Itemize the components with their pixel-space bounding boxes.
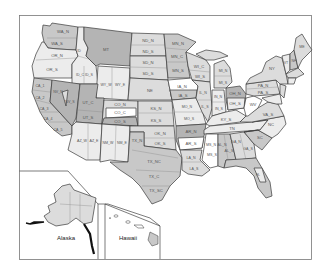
label-mo-s: MO_S (184, 117, 195, 121)
island-oahu (126, 221, 130, 224)
label-oh-n: OH_N (229, 91, 241, 96)
label-mn-n: MN_N (172, 41, 184, 46)
label-fl: FL (256, 173, 260, 177)
label-mo-n: MO_N (182, 105, 193, 109)
label-va-s: VA_S (263, 112, 274, 117)
label-tx-n: TX_N (132, 138, 143, 143)
label-ok-s: OK_S (154, 141, 165, 146)
label-nm-e: NM_E (117, 141, 128, 145)
hawaii-label: Hawaii (119, 235, 137, 241)
state-indiana[interactable] (212, 90, 226, 116)
label-ga-n: GA_N (231, 140, 241, 144)
label-wi-s: WI_S (195, 74, 205, 79)
label-ga-s: GA_S (243, 147, 253, 151)
label-ne: NE (147, 88, 153, 93)
label-or-n: OR_N (51, 53, 63, 58)
label-id-c: ID_C (76, 73, 85, 77)
label-sc: SC (257, 135, 263, 140)
label-la-s: LA_S (190, 167, 199, 171)
label-wi-c: WI_C (194, 64, 204, 69)
label-wa-n: WA_N (57, 29, 69, 34)
island-kauai (114, 215, 118, 217)
label-il-s: IL_S (201, 105, 209, 109)
label-wy-e: WY_E (115, 83, 126, 87)
label-la-n: LA_N (187, 156, 196, 160)
label-ut-c: UT_C (83, 100, 94, 105)
label-al-s: AL_S (225, 149, 234, 153)
label-tx-c: TX_C (149, 174, 160, 179)
label-ks-s: KS_S (151, 118, 162, 123)
label-ca-3: CA_3 (40, 107, 49, 111)
label-sd-s: SD_S (143, 71, 154, 76)
label-ia-s: IA_S (178, 93, 187, 98)
label-wa-s: WA_S (51, 41, 63, 46)
label-nv-s: NV_S (65, 100, 75, 104)
label-ca-4: CA_4 (44, 117, 53, 121)
label-mi-s: MI_S (219, 81, 228, 85)
label-ky-s: KY_S (221, 117, 232, 122)
label-co-s: CO_S (114, 119, 126, 124)
label-ut-s: UT_S (83, 115, 94, 120)
label-nv-n: NV_N (53, 90, 63, 94)
label-ia-n: IA_N (177, 84, 186, 89)
label-az-e: AZ_E (90, 139, 100, 143)
us-climate-division-map: WA_N WA_S OR_N OR_S ID ID_C ID_S MT WY_W… (0, 0, 329, 268)
label-al-n: AL_N (218, 143, 227, 147)
label-ms-n: MS_N (206, 143, 216, 147)
alaska-label: Alaska (57, 235, 76, 241)
label-pa-s: PA_S (258, 90, 269, 95)
label-tn: TN (229, 126, 235, 131)
label-nd-n: ND_N (142, 38, 153, 43)
label-ks-n: KS_N (151, 106, 162, 111)
label-tx-nc: TX_NC (147, 159, 161, 164)
label-or-s: OR_S (46, 67, 58, 72)
label-wy-w: WY_W (100, 83, 112, 87)
label-id-s: ID_S (85, 73, 94, 77)
map-canvas: WA_N WA_S OR_N OR_S ID ID_C ID_S MT WY_W… (0, 0, 329, 268)
label-ca-5: CA_5 (54, 128, 63, 132)
label-co-c: CO_C (114, 110, 126, 115)
label-mi-n: MI_N (219, 69, 228, 73)
label-nh: NH (291, 59, 297, 63)
label-ar-s: AR_S (186, 141, 197, 146)
label-wv: WV (250, 102, 257, 107)
label-oh-s: OH_S (229, 101, 241, 106)
label-mt: MT (103, 47, 109, 52)
label-az-w: AZ_W (77, 139, 88, 143)
label-sd-n: SD_N (142, 60, 153, 65)
label-mn-s: MN_S (172, 68, 184, 73)
label-il-n: IL_N (199, 91, 207, 95)
label-vt: VT (284, 61, 289, 65)
label-ca-1: CA_1 (36, 84, 45, 88)
label-ms-s: MS_S (207, 153, 217, 157)
label-nc: NC (268, 122, 274, 127)
label-ny: NY (269, 66, 275, 71)
label-nm-w: NM_W (103, 141, 115, 145)
label-in-n: IN_N (214, 95, 223, 99)
label-co-n: CO_N (114, 102, 126, 107)
label-me: ME (299, 45, 305, 49)
label-id: ID (77, 49, 81, 53)
island-niihau (109, 217, 111, 218)
label-mn-c: MN_C (171, 54, 183, 59)
label-tx-sc: TX_SC (149, 188, 163, 193)
label-in-s: IN_S (215, 107, 224, 111)
label-ok-n: OK_N (154, 131, 165, 136)
label-ca-2: CA_2 (36, 96, 45, 100)
label-pa-n: PA_N (258, 83, 269, 88)
label-ar-n: AR_N (185, 129, 196, 134)
label-nd-s: ND_S (142, 49, 153, 54)
